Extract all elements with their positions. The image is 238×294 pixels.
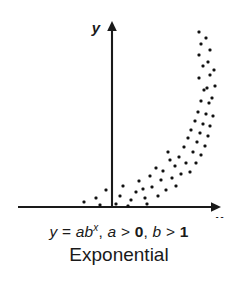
axes-group: y x — [18, 19, 224, 218]
scatter-point — [99, 204, 102, 207]
equation-b-condition: b — [153, 223, 162, 240]
scatter-point — [105, 189, 108, 192]
scatter-point — [207, 135, 210, 138]
scatter-point — [209, 74, 212, 77]
scatter-point — [167, 151, 170, 154]
scatter-point — [130, 199, 133, 202]
scatter-point — [185, 162, 188, 165]
equation-comma-1: , — [99, 223, 104, 240]
scatter-point — [203, 89, 206, 92]
equation-gt-2: > — [166, 223, 175, 240]
scatter-point — [206, 87, 209, 90]
scatter-point — [127, 205, 130, 208]
x-axis-label: x — [214, 211, 224, 218]
scatter-point — [169, 159, 172, 162]
y-axis-label: y — [91, 19, 101, 36]
scatter-point — [138, 180, 141, 183]
scatter-point — [211, 97, 214, 100]
scatter-point — [200, 154, 203, 157]
scatter-point — [115, 203, 118, 206]
y-axis-arrowhead — [107, 21, 117, 31]
figure-caption: y = abx, a > 0, b > 1 Exponential — [0, 222, 238, 267]
scatter-point — [83, 201, 86, 204]
equation-y: y — [49, 223, 57, 240]
equation-zero: 0 — [135, 223, 144, 240]
scatter-point — [212, 115, 215, 118]
equation-gt-1: > — [121, 223, 130, 240]
scatter-point — [198, 77, 201, 80]
scatter-point — [183, 146, 186, 149]
scatter-point — [196, 141, 199, 144]
scatter-point — [175, 185, 178, 188]
scatter-point — [187, 137, 190, 140]
scatter-point — [198, 31, 201, 34]
scatter-point — [202, 123, 205, 126]
plot-type-label: Exponential — [0, 243, 238, 267]
equation-equals: = — [62, 223, 71, 240]
scatter-point — [213, 69, 216, 72]
scatter-point — [165, 189, 168, 192]
scatter-point — [190, 129, 193, 132]
scatter-point — [171, 177, 174, 180]
scatter-point — [95, 197, 98, 200]
scatter-plot-canvas: y x — [0, 0, 238, 218]
scatter-point-cloud — [83, 31, 217, 208]
scatter-point — [157, 195, 160, 198]
scatter-point — [200, 100, 203, 103]
scatter-point — [204, 145, 207, 148]
scatter-point — [207, 61, 210, 64]
scatter-point — [144, 197, 147, 200]
scatter-point — [209, 125, 212, 128]
scatter-point — [214, 85, 217, 88]
scatter-point — [151, 186, 154, 189]
equation-line: y = abx, a > 0, b > 1 — [0, 222, 238, 242]
scatter-point — [162, 170, 165, 173]
exponential-scatter-figure: y x y = abx, a > 0, b > 1 Exponential — [0, 0, 238, 294]
scatter-point — [208, 102, 211, 105]
scatter-point — [180, 173, 183, 176]
scatter-point — [174, 165, 177, 168]
scatter-point — [194, 120, 197, 123]
scatter-point — [142, 188, 145, 191]
scatter-point — [189, 171, 192, 174]
scatter-point — [119, 195, 122, 198]
scatter-point — [198, 54, 201, 57]
scatter-point — [199, 132, 202, 135]
scatter-point — [155, 167, 158, 170]
scatter-point — [146, 203, 149, 206]
equation-a: a — [76, 223, 85, 240]
scatter-point — [192, 151, 195, 154]
scatter-point — [202, 65, 205, 68]
scatter-point — [197, 111, 200, 114]
equation-comma-2: , — [144, 223, 149, 240]
scatter-point — [178, 156, 181, 159]
scatter-point — [209, 49, 212, 52]
scatter-point — [205, 37, 208, 40]
scatter-point — [149, 175, 152, 178]
scatter-point — [122, 185, 125, 188]
scatter-point — [160, 179, 163, 182]
equation-one: 1 — [180, 223, 189, 240]
scatter-point — [200, 43, 203, 46]
equation-a-condition: a — [108, 223, 117, 240]
scatter-point — [195, 162, 198, 165]
scatter-point — [205, 113, 208, 116]
scatter-point — [135, 191, 138, 194]
